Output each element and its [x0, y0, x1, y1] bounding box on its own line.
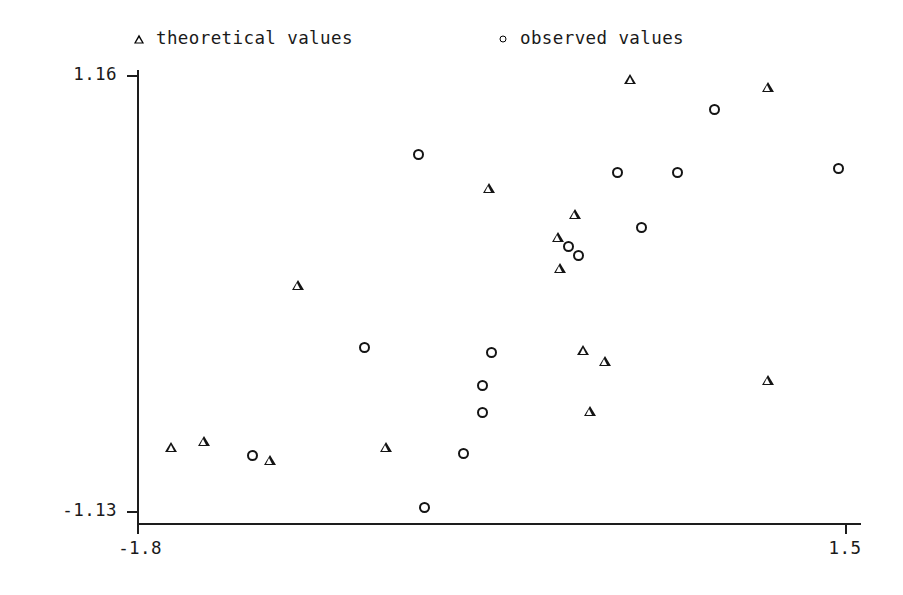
triangle-icon — [554, 263, 566, 273]
legend-item-observed: observed values — [496, 26, 684, 52]
x-axis-line — [137, 523, 861, 525]
circle-icon — [496, 32, 510, 46]
y-axis-label-bottom: -1.13 — [35, 502, 117, 520]
y-axis-line — [137, 70, 139, 525]
circle-icon — [636, 222, 647, 233]
circle-icon — [612, 167, 623, 178]
circle-icon — [563, 241, 574, 252]
circle-icon — [486, 347, 497, 358]
circle-icon — [359, 342, 370, 353]
triangle-icon — [264, 455, 276, 465]
triangle-icon — [584, 406, 596, 416]
x-axis-label-right: 1.5 — [829, 540, 862, 558]
y-axis-tick-bottom — [127, 511, 138, 513]
scatter-plot-figure: theoretical values observed values 1.16 … — [0, 0, 903, 595]
circle-icon — [477, 380, 488, 391]
triangle-icon — [483, 183, 495, 193]
circle-icon — [477, 407, 488, 418]
circle-icon — [672, 167, 683, 178]
x-axis-tick-right — [845, 523, 847, 534]
y-axis-label-top: 1.16 — [45, 66, 117, 84]
triangle-icon — [132, 32, 146, 46]
circle-icon — [458, 448, 469, 459]
triangle-icon — [569, 209, 581, 219]
circle-icon — [709, 104, 720, 115]
triangle-icon — [292, 280, 304, 290]
circle-icon — [419, 502, 430, 513]
y-axis-tick-top — [127, 75, 138, 77]
triangle-icon — [762, 375, 774, 385]
triangle-icon — [198, 436, 210, 446]
circle-icon — [247, 450, 258, 461]
triangle-icon — [577, 345, 589, 355]
triangle-icon — [165, 442, 177, 452]
triangle-icon — [552, 232, 564, 242]
circle-icon — [573, 250, 584, 261]
triangle-icon — [599, 356, 611, 366]
triangle-icon — [624, 74, 636, 84]
circle-icon — [413, 149, 424, 160]
legend-item-theoretical: theoretical values — [132, 26, 353, 52]
x-axis-tick-left — [137, 523, 139, 534]
triangle-icon — [380, 442, 392, 452]
legend-label-theoretical: theoretical values — [156, 30, 353, 48]
circle-icon — [833, 163, 844, 174]
x-axis-label-left: -1.8 — [118, 540, 162, 558]
triangle-icon — [762, 82, 774, 92]
legend-label-observed: observed values — [520, 30, 684, 48]
